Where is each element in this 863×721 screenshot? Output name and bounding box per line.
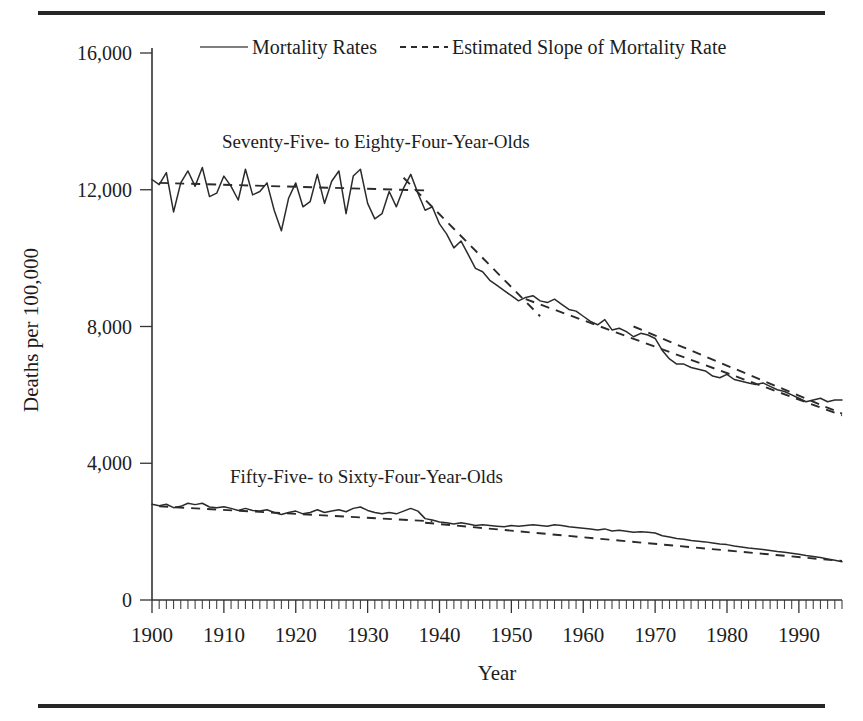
y-tick-label: 12,000 (77, 179, 132, 201)
mortality-chart-svg: 04,0008,00012,00016,000 1900191019201930… (0, 0, 863, 721)
x-axis-tick-labels: 1900191019201930194019501960197019801990 (131, 623, 820, 647)
x-tick-label: 1960 (562, 623, 604, 647)
trend-segment (634, 327, 842, 414)
y-tick-label: 4,000 (87, 452, 132, 474)
legend-label-mortality-rates: Mortality Rates (252, 36, 377, 59)
y-axis-tick-labels: 04,0008,00012,00016,000 (77, 42, 132, 611)
trend-segment (404, 178, 541, 316)
x-tick-label: 1910 (203, 623, 245, 647)
trend-segment (526, 299, 842, 415)
series-line (152, 168, 842, 402)
x-tick-label: 1980 (706, 623, 748, 647)
x-tick-label: 1930 (347, 623, 389, 647)
chart-legend: Mortality Rates Estimated Slope of Morta… (200, 36, 727, 59)
chart-plot-area: 04,0008,00012,00016,000 1900191019201930… (0, 0, 863, 721)
legend-label-estimated-slope: Estimated Slope of Mortality Rate (452, 36, 727, 59)
data-series-lines (152, 168, 842, 562)
trend-slope-lines (159, 178, 842, 561)
x-tick-label: 1900 (131, 623, 173, 647)
y-tick-label: 0 (122, 589, 132, 611)
trend-segment (159, 506, 432, 521)
y-tick-label: 8,000 (87, 316, 132, 338)
x-tick-label: 1990 (778, 623, 820, 647)
upper-series-annotation: Seventy-Five- to Eighty-Four-Year-Olds (222, 131, 530, 152)
x-tick-label: 1940 (419, 623, 461, 647)
y-tick-label: 16,000 (77, 42, 132, 64)
x-tick-label: 1950 (490, 623, 532, 647)
x-tick-label: 1970 (634, 623, 676, 647)
figure-container: 04,0008,00012,00016,000 1900191019201930… (0, 0, 863, 721)
trend-segment (425, 523, 842, 561)
lower-series-annotation: Fifty-Five- to Sixty-Four-Year-Olds (230, 466, 503, 487)
y-axis-title: Deaths per 100,000 (19, 248, 43, 412)
x-tick-label: 1920 (275, 623, 317, 647)
x-axis-title: Year (478, 661, 517, 685)
